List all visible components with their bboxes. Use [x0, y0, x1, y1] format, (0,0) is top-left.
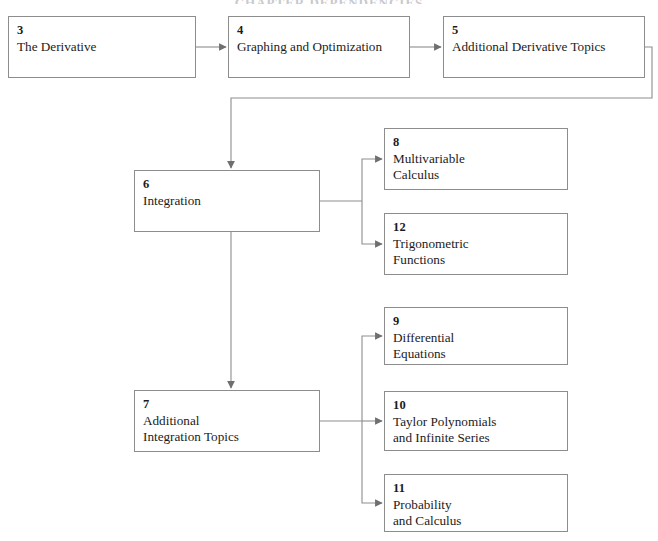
node-ch12: 12TrigonometricFunctions — [384, 213, 568, 275]
node-number: 8 — [393, 135, 567, 150]
edge-ch6-ch12 — [362, 201, 382, 244]
node-label-line: Probability — [393, 497, 567, 513]
edge-ch7-ch11 — [362, 421, 382, 503]
node-ch4: 4Graphing and Optimization — [228, 16, 410, 78]
node-label-line: Additional — [143, 413, 319, 429]
node-ch6: 6Integration — [134, 170, 320, 232]
node-ch7: 7AdditionalIntegration Topics — [134, 390, 320, 452]
node-label-line: Multivariable — [393, 151, 567, 167]
node-label-line: The Derivative — [17, 39, 195, 55]
node-label-line: Trigonometric — [393, 236, 567, 252]
node-ch11: 11Probabilityand Calculus — [384, 474, 568, 532]
node-number: 12 — [393, 220, 567, 235]
node-label-line: Integration Topics — [143, 429, 319, 445]
node-label-line: Graphing and Optimization — [237, 39, 409, 55]
node-ch10: 10Taylor Polynomialsand Infinite Series — [384, 391, 568, 451]
node-label-line: Equations — [393, 346, 567, 362]
node-label-line: Taylor Polynomials — [393, 414, 567, 430]
node-label-line: Calculus — [393, 167, 567, 183]
node-ch5: 5Additional Derivative Topics — [443, 16, 645, 78]
node-number: 7 — [143, 397, 319, 412]
node-number: 4 — [237, 23, 409, 38]
chapter-dependency-flowchart: CHAPTER DEPENDENCIES — [0, 0, 658, 541]
edge-ch7-ch9 — [362, 336, 382, 421]
node-number: 10 — [393, 398, 567, 413]
node-label-line: and Infinite Series — [393, 430, 567, 446]
node-label-line: Integration — [143, 193, 319, 209]
node-label-line: Differential — [393, 330, 567, 346]
node-number: 3 — [17, 23, 195, 38]
node-ch3: 3The Derivative — [8, 16, 196, 78]
node-number: 6 — [143, 177, 319, 192]
node-label-line: Additional Derivative Topics — [452, 39, 644, 55]
node-number: 5 — [452, 23, 644, 38]
node-number: 11 — [393, 481, 567, 496]
node-ch9: 9DifferentialEquations — [384, 307, 568, 365]
node-number: 9 — [393, 314, 567, 329]
node-label-line: and Calculus — [393, 513, 567, 529]
node-label-line: Functions — [393, 252, 567, 268]
node-ch8: 8MultivariableCalculus — [384, 128, 568, 190]
edge-ch6-ch8 — [362, 159, 382, 201]
